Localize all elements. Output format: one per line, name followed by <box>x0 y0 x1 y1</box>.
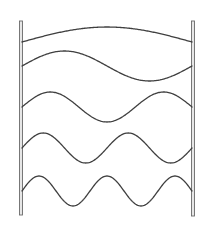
wave-1-curve <box>22 27 192 42</box>
right-wall <box>192 21 195 216</box>
wave-2-curve <box>22 51 192 81</box>
left-wall <box>20 21 23 215</box>
waves <box>22 27 192 206</box>
standing-waves-diagram <box>0 0 210 230</box>
wave-3-curve <box>22 92 192 122</box>
wave-4-curve <box>22 133 192 163</box>
wave-5-curve <box>22 176 192 206</box>
walls <box>20 21 195 216</box>
